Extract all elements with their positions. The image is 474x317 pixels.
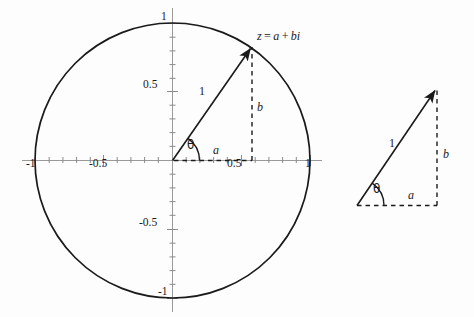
z-point-label: z = a + bi [257, 30, 300, 42]
x-tick-label-neg-one: -1 [26, 158, 36, 170]
circle-radius-label: 1 [199, 85, 205, 97]
triangle-base-label: a [408, 189, 414, 201]
y-tick-label-pos-one: 1 [161, 11, 167, 23]
triangle-hypotenuse [357, 91, 435, 206]
y-tick-label-neg-one: -1 [158, 286, 168, 298]
z-imaginary-part: bi [291, 29, 300, 43]
x-tick-label-pos-one: 1 [305, 158, 311, 170]
z-equals-sign: = [264, 29, 271, 43]
x-tick-label-neg-half: -0.5 [89, 158, 107, 170]
y-tick-label-pos-half: 0.5 [143, 79, 157, 91]
triangle-theta-label: θ [373, 183, 380, 195]
circle-b-leg-label: b [257, 101, 263, 113]
triangle-height-label: b [443, 148, 449, 160]
y-tick-label-neg-half: -0.5 [139, 217, 157, 229]
circle-theta-label: θ [187, 139, 194, 151]
circle-a-leg-label: a [213, 144, 219, 156]
triangle-hypotenuse-label: 1 [389, 137, 395, 149]
x-tick-label-pos-half: 0.5 [227, 158, 241, 170]
right-triangle-inset [357, 89, 437, 206]
radius-vector [173, 49, 251, 161]
